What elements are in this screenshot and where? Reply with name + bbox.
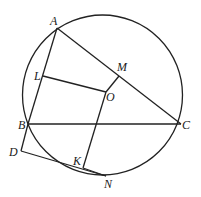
point-label-K: K (73, 155, 81, 167)
segment-DN (21, 151, 106, 176)
point-label-O: O (106, 91, 115, 103)
geometry-diagram: A L M O B C D K N (0, 0, 201, 197)
circumcircle (23, 15, 183, 175)
point-label-D: D (9, 146, 18, 158)
point-label-M: M (117, 61, 127, 73)
point-label-B: B (18, 119, 25, 131)
segment-OK (83, 92, 106, 168)
point-label-N: N (104, 178, 112, 190)
point-label-L: L (34, 70, 41, 82)
point-label-C: C (182, 119, 190, 131)
diagram-svg (0, 0, 201, 197)
point-label-A: A (50, 15, 57, 27)
segment-LO (43, 76, 106, 92)
